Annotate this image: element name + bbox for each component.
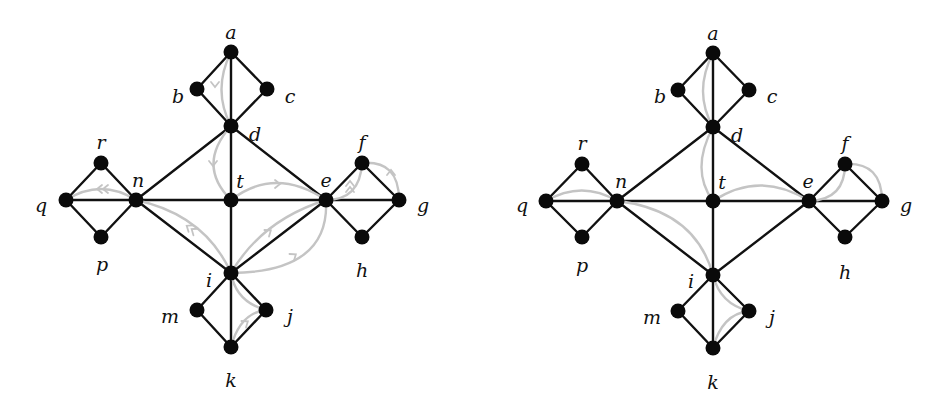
node-label-p: p xyxy=(576,254,588,276)
edge-a-b xyxy=(678,53,713,90)
node-a xyxy=(224,45,239,60)
node-label-g: g xyxy=(900,194,912,216)
edge-d-e xyxy=(713,127,809,201)
edge-c-d xyxy=(231,89,267,126)
edge-q-r xyxy=(546,164,582,201)
node-c xyxy=(260,82,275,97)
node-h xyxy=(838,230,853,245)
node-j xyxy=(742,304,757,319)
node-p xyxy=(575,230,590,245)
edge-f-g xyxy=(845,164,882,201)
graph-figure: abcdrnqptefghimjk abcdrnqptefghimjk xyxy=(0,0,944,404)
node-r xyxy=(94,156,109,171)
walk-curve xyxy=(546,191,617,202)
node-j xyxy=(259,303,274,318)
node-b xyxy=(190,82,205,97)
node-label-j: j xyxy=(283,305,293,327)
edge-a-c xyxy=(231,52,267,89)
node-label-b: b xyxy=(172,85,184,107)
left-graph-panel: abcdrnqptefghimjk xyxy=(35,21,429,391)
right-graph-panel: abcdrnqptefghimjk xyxy=(516,22,912,393)
edge-r-n xyxy=(101,163,136,200)
edge-i-j xyxy=(231,273,266,310)
node-label-n: n xyxy=(615,170,627,192)
node-label-p: p xyxy=(96,253,108,275)
edge-q-r xyxy=(66,163,101,200)
node-label-d: d xyxy=(731,124,743,146)
edge-q-p xyxy=(546,201,582,237)
node-e xyxy=(802,194,817,209)
node-d xyxy=(224,119,239,134)
edge-i-j xyxy=(713,275,749,311)
node-b xyxy=(671,83,686,98)
arrow-icon xyxy=(211,82,219,87)
arrow-icon xyxy=(346,181,354,186)
node-label-q: q xyxy=(35,194,47,216)
edge-m-k xyxy=(197,310,231,347)
node-label-k: k xyxy=(225,369,237,391)
edge-c-d xyxy=(713,90,749,127)
edge-p-n xyxy=(582,201,617,237)
node-label-k: k xyxy=(707,371,719,393)
node-i xyxy=(224,266,239,281)
edge-a-c xyxy=(713,53,749,90)
edge-n-i xyxy=(136,200,231,273)
node-f xyxy=(838,157,853,172)
node-a xyxy=(706,46,721,61)
edge-n-i xyxy=(617,201,713,275)
node-label-j: j xyxy=(765,306,775,328)
edge-a-b xyxy=(197,52,231,89)
edge-h-g xyxy=(362,200,399,237)
edge-m-k xyxy=(678,311,713,348)
edge-e-h xyxy=(809,201,845,237)
node-label-m: m xyxy=(161,305,179,327)
edge-h-g xyxy=(845,201,882,237)
walk-curve xyxy=(222,52,232,126)
edge-i-m xyxy=(678,275,713,311)
node-p xyxy=(94,230,109,245)
node-label-h: h xyxy=(839,261,851,283)
edge-e-i xyxy=(713,201,809,275)
node-t xyxy=(706,194,721,209)
node-h xyxy=(355,230,370,245)
node-label-t: t xyxy=(236,170,244,192)
node-label-e: e xyxy=(320,169,331,191)
walk-curve xyxy=(702,127,714,201)
node-label-h: h xyxy=(356,259,368,281)
node-label-g: g xyxy=(417,194,429,216)
node-label-f: f xyxy=(839,132,851,154)
node-g xyxy=(875,194,890,209)
edge-d-n xyxy=(136,126,231,200)
node-f xyxy=(355,156,370,171)
node-n xyxy=(129,193,144,208)
edge-r-n xyxy=(582,164,617,201)
node-label-a: a xyxy=(225,21,236,43)
node-k xyxy=(706,341,721,356)
node-label-i: i xyxy=(688,270,694,292)
node-label-e: e xyxy=(802,170,813,192)
node-label-a: a xyxy=(707,22,718,44)
node-k xyxy=(224,340,239,355)
edge-e-f xyxy=(809,164,845,201)
node-label-n: n xyxy=(132,169,144,191)
node-q xyxy=(539,194,554,209)
node-label-q: q xyxy=(516,194,528,216)
node-label-m: m xyxy=(643,306,661,328)
node-d xyxy=(706,120,721,135)
node-c xyxy=(742,83,757,98)
edge-d-e xyxy=(231,126,326,200)
node-q xyxy=(59,193,74,208)
edge-q-p xyxy=(66,200,101,237)
node-label-d: d xyxy=(249,123,261,145)
edge-f-g xyxy=(362,163,399,200)
node-label-b: b xyxy=(654,85,666,107)
node-n xyxy=(610,194,625,209)
walk-curve xyxy=(703,53,713,127)
node-label-i: i xyxy=(206,269,212,291)
node-label-t: t xyxy=(718,171,726,193)
walk-curve xyxy=(713,186,809,202)
node-i xyxy=(706,268,721,283)
node-label-c: c xyxy=(767,85,778,107)
node-r xyxy=(575,157,590,172)
node-t xyxy=(224,193,239,208)
